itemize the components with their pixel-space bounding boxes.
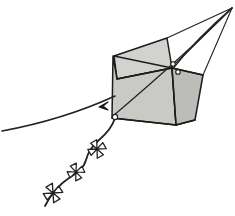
knot-bottom-left [112,114,117,119]
knot-mid-right [171,62,176,67]
knot-mid-right-lower [176,70,181,75]
kite-drawing [0,0,235,216]
artwork-canvas [0,0,235,216]
